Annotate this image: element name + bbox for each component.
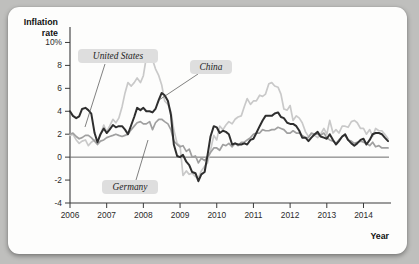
- x-tick-label: 2009: [171, 210, 190, 220]
- annotation-germany-label: Germany: [113, 182, 149, 192]
- x-tick-label: 2007: [97, 210, 116, 220]
- x-tick-label: 2010: [207, 210, 226, 220]
- x-tick-label: 2011: [244, 210, 262, 220]
- y-axis-title: Inflation: [24, 17, 58, 27]
- y-tick-label: 0: [57, 152, 62, 162]
- annotation-leader-line: [85, 64, 105, 127]
- figure-card: InflationrateYear 10%86420-2-4 200620072…: [8, 7, 407, 254]
- x-tick-label: 2013: [317, 210, 336, 220]
- annotation-leader-line: [136, 140, 148, 180]
- x-tick-label: 2014: [354, 210, 373, 220]
- series-line-united-states: [70, 93, 388, 181]
- y-tick-label: 6: [57, 83, 62, 93]
- inflation-rate-line-chart: InflationrateYear 10%86420-2-4 200620072…: [8, 7, 407, 254]
- y-tick-label: 8: [57, 60, 62, 70]
- x-tick-label: 2006: [61, 210, 80, 220]
- y-tick-label: 4: [57, 106, 62, 116]
- annotation-leader-line: [159, 74, 198, 100]
- annotation-united-states-label: United States: [93, 51, 144, 61]
- y-tick-label: 2: [57, 129, 62, 139]
- series-line-china: [70, 57, 388, 177]
- y-tick-label: -4: [55, 198, 63, 208]
- y-tick-label: -2: [55, 175, 63, 185]
- chart-plot-area: InflationrateYear 10%86420-2-4 200620072…: [8, 7, 407, 254]
- annotation-china-label: China: [200, 62, 223, 72]
- y-tick-label: 10%: [45, 37, 62, 47]
- x-axis-title: Year: [370, 231, 389, 241]
- x-tick-label: 2012: [281, 210, 300, 220]
- x-tick-label: 2008: [134, 210, 153, 220]
